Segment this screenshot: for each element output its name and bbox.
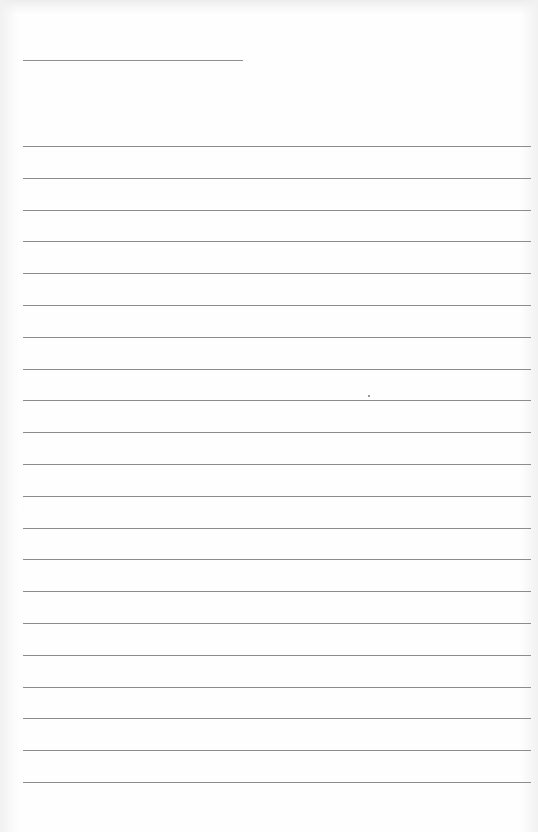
ruled-line: [23, 782, 531, 783]
ruled-line: [23, 559, 531, 560]
paper-speck: [368, 395, 370, 397]
ruled-line: [23, 178, 531, 179]
scan-shadow-left: [0, 0, 18, 832]
ruled-line: [23, 464, 531, 465]
ruled-line: [23, 655, 531, 656]
ruled-line: [23, 241, 531, 242]
header-write-line: [23, 60, 243, 61]
ruled-line: [23, 337, 531, 338]
ruled-line: [23, 369, 531, 370]
ruled-line: [23, 305, 531, 306]
ruled-line: [23, 273, 531, 274]
ruled-line: [23, 718, 531, 719]
ruled-line: [23, 400, 531, 401]
ruled-line: [23, 750, 531, 751]
ruled-line: [23, 591, 531, 592]
ruled-line: [23, 146, 531, 147]
ruled-line: [23, 210, 531, 211]
lined-paper-page: [0, 0, 538, 832]
ruled-line: [23, 496, 531, 497]
scan-shadow-right: [520, 0, 538, 832]
ruled-line: [23, 432, 531, 433]
ruled-line: [23, 528, 531, 529]
ruled-line: [23, 623, 531, 624]
ruled-line: [23, 687, 531, 688]
